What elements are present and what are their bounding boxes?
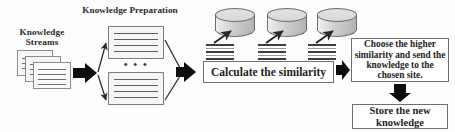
arrow-split-to-prepared-documents (98, 43, 106, 100)
arrow-choose-to-store (389, 84, 411, 102)
arrow-stripes-to-database-2 (266, 31, 283, 43)
diagram-canvas: KnowledgeStreams Knowledge Preparation •… (0, 0, 455, 132)
arrow-stripes-to-database-3 (316, 31, 333, 43)
arrow-streams-to-preparation (73, 63, 97, 83)
stream-document-3 (33, 62, 71, 89)
arrow-stripes-to-database-1 (214, 31, 231, 43)
arrow-calculate-to-choose (336, 60, 350, 80)
